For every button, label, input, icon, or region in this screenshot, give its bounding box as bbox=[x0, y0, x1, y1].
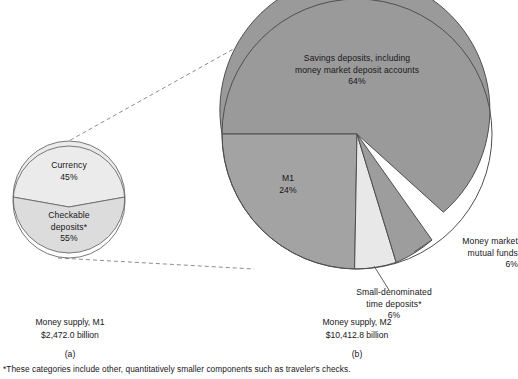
panel-b-caption-line2: $10,412.8 billion bbox=[294, 329, 420, 341]
panel-a-pie bbox=[13, 141, 125, 258]
panel-b-pie bbox=[220, 0, 492, 269]
panel-a-letter: (a) bbox=[9, 349, 131, 359]
panel-b-caption-line1: Money supply, M2 bbox=[294, 316, 420, 328]
slice-m1[interactable] bbox=[222, 134, 357, 269]
figure-canvas: Currency 45% Checkable deposits* 55% Sav… bbox=[0, 0, 518, 379]
connector-line-bottom bbox=[58, 258, 254, 269]
panel-a-caption-line2: $2,472.0 billion bbox=[9, 329, 131, 341]
connector-line-top bbox=[58, 42, 246, 147]
panel-a-caption-line1: Money supply, M1 bbox=[9, 316, 131, 328]
panel-b-letter: (b) bbox=[294, 349, 420, 359]
slice-currency[interactable] bbox=[13, 141, 125, 207]
figure-footnote: *These categories include other, quantit… bbox=[3, 364, 351, 375]
leader-line-sdtd bbox=[374, 266, 389, 290]
